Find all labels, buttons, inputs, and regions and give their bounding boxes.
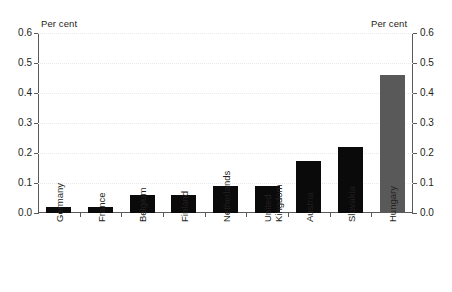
category-label: Hungary bbox=[388, 186, 399, 222]
gridline bbox=[38, 63, 413, 65]
category-label: United Kingdom bbox=[263, 185, 284, 223]
x-axis-tick bbox=[163, 213, 164, 217]
axis-tick-mark bbox=[413, 213, 417, 214]
gridline bbox=[38, 123, 413, 125]
axis-tick-mark bbox=[413, 153, 417, 154]
bar-chart: Per cent Per cent 0.00.10.20.30.40.50.6 … bbox=[0, 0, 452, 292]
axis-tick-mark bbox=[413, 93, 417, 94]
right-y-tick-label: 0.6 bbox=[420, 28, 434, 38]
left-y-tick-label: 0.0 bbox=[18, 208, 32, 218]
left-y-tick-label: 0.4 bbox=[18, 88, 32, 98]
right-y-tick-label: 0.4 bbox=[420, 88, 434, 98]
axis-tick-mark bbox=[34, 123, 38, 124]
left-y-tick-label: 0.2 bbox=[18, 148, 32, 158]
axis-tick-mark bbox=[413, 33, 417, 34]
axis-tick-mark bbox=[34, 183, 38, 184]
axis-tick-mark bbox=[413, 183, 417, 184]
category-label: Belgium bbox=[138, 188, 149, 222]
x-axis-tick bbox=[246, 213, 247, 217]
x-axis-tick bbox=[330, 213, 331, 217]
right-y-tick-label: 0.1 bbox=[420, 178, 434, 188]
left-axis-unit-label: Per cent bbox=[41, 18, 77, 29]
gridline bbox=[38, 33, 413, 35]
left-y-tick-label: 0.3 bbox=[18, 118, 32, 128]
axis-tick-mark bbox=[34, 153, 38, 154]
axis-tick-mark bbox=[34, 63, 38, 64]
x-axis-tick bbox=[80, 213, 81, 217]
right-y-tick-label: 0.5 bbox=[420, 58, 434, 68]
right-y-tick-label: 0.3 bbox=[420, 118, 434, 128]
axis-tick-mark bbox=[413, 63, 417, 64]
category-label: Slovakia bbox=[347, 186, 358, 222]
right-y-tick-label: 0.2 bbox=[420, 148, 434, 158]
x-axis-tick bbox=[288, 213, 289, 217]
left-y-tick-label: 0.1 bbox=[18, 178, 32, 188]
left-y-tick-label: 0.6 bbox=[18, 28, 32, 38]
category-label: Finland bbox=[180, 191, 191, 222]
category-label: France bbox=[97, 192, 108, 222]
category-label: Netherlands bbox=[222, 171, 233, 222]
axis-tick-mark bbox=[34, 33, 38, 34]
category-label: Austria bbox=[305, 192, 316, 222]
x-axis-tick bbox=[371, 213, 372, 217]
axis-tick-mark bbox=[34, 93, 38, 94]
right-axis-unit-label: Per cent bbox=[371, 18, 407, 29]
axis-tick-mark bbox=[413, 123, 417, 124]
category-label: Germany bbox=[55, 183, 66, 222]
gridline bbox=[38, 93, 413, 95]
axis-tick-mark bbox=[34, 213, 38, 214]
x-axis-tick bbox=[205, 213, 206, 217]
left-y-tick-label: 0.5 bbox=[18, 58, 32, 68]
right-y-tick-label: 0.0 bbox=[420, 208, 434, 218]
x-axis-tick bbox=[121, 213, 122, 217]
